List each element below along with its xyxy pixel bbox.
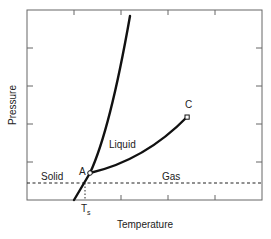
bottom-ticks — [121, 195, 215, 200]
phase-diagram: A C Solid Liquid Gas Ts Temperature Pres… — [0, 0, 271, 239]
left-ticks — [27, 48, 33, 162]
vaporization-curve — [90, 117, 187, 173]
y-axis-title: Pressure — [7, 85, 18, 125]
label-ts: Ts — [81, 203, 91, 216]
label-c: C — [185, 99, 192, 110]
critical-point-marker — [185, 115, 189, 119]
top-ticks — [74, 10, 215, 15]
label-liquid: Liquid — [109, 139, 136, 150]
label-solid: Solid — [41, 171, 63, 182]
right-ticks — [256, 48, 262, 162]
label-gas: Gas — [162, 171, 180, 182]
triple-point-marker — [88, 171, 93, 176]
label-a: A — [79, 166, 86, 177]
x-axis-title: Temperature — [117, 219, 174, 230]
